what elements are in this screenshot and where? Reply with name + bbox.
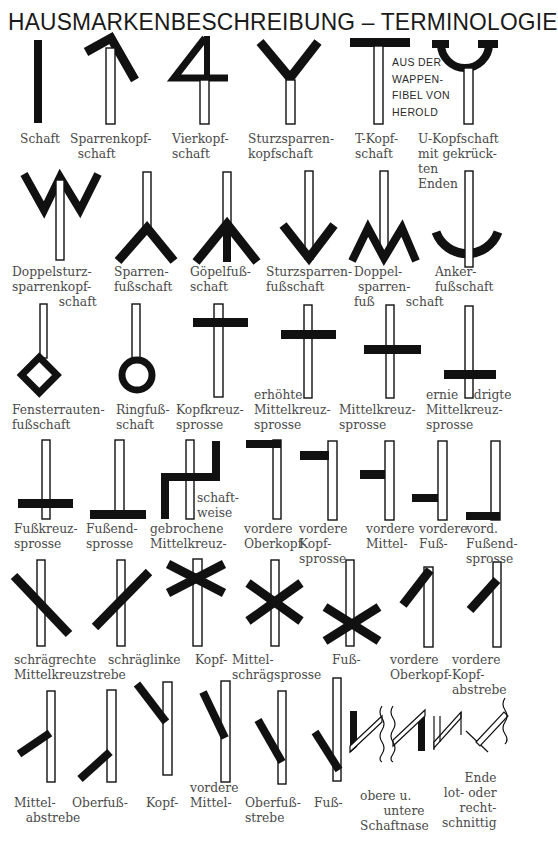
label-vordere-kopfabstrebe: vordere Kopf- abstrebe bbox=[452, 652, 507, 697]
mark-erhoehte-mittelkreuzsprosse-icon bbox=[281, 305, 336, 398]
mark-mittelkreuzsprosse-icon bbox=[364, 305, 421, 398]
label-sparrenkopfschaft: Sparrenkopf- schaft bbox=[70, 131, 151, 161]
label-vierkopfschaft: Vierkopf- schaft bbox=[172, 131, 229, 161]
label-mittel-schraegsprosse: Mittel- schrägsprosse bbox=[232, 652, 321, 682]
mark-oberfuss-abstrebe-icon bbox=[80, 690, 116, 782]
mark-vordere-kopfabstrebe-icon bbox=[470, 562, 501, 647]
mark-ende-rechtschnittig-icon bbox=[466, 698, 508, 752]
mark-oberfuss-strebe-icon bbox=[258, 691, 286, 784]
mark-schraeglinke-mittelkreuzstrebe-icon bbox=[95, 560, 149, 646]
mark-vordere-fusssprosse-icon bbox=[412, 441, 447, 520]
label-sturzsparrenfussschaft: Sturzsparren- fußschaft bbox=[266, 264, 352, 294]
label-mittel-abstrebe: Mittel- abstrebe bbox=[14, 795, 80, 825]
mark-fuss-schraegsprosse-icon bbox=[325, 560, 379, 646]
mark-vordere-oberkopfabstrebe-icon bbox=[403, 567, 433, 647]
label-vordere-oberkopfabstrebe: vordere Oberkopf- bbox=[390, 652, 452, 682]
label-oberfuss-abstrebe: Oberfuß- bbox=[72, 795, 128, 810]
mark-untere-schaftnase-icon bbox=[391, 706, 425, 762]
label-doppelsturzsparrenkopfschaft: Doppelsturz- sparrenkopf- schaft bbox=[12, 264, 97, 309]
label-goepelfussschaft: Göpelfuß- schaft bbox=[190, 264, 251, 294]
mark-vordere-mittelsprosse-icon bbox=[360, 441, 394, 520]
label-fuss-schraegsprosse: Fuß- bbox=[332, 652, 361, 667]
label-kopf-strebe: Kopf- bbox=[146, 795, 178, 810]
mark-vordere-oberkopfsprosse-icon bbox=[246, 440, 281, 519]
mark-fuss-strebe-icon bbox=[315, 678, 341, 781]
mark-obere-schaftnase-icon bbox=[350, 706, 384, 762]
mark-fussendsprosse-icon bbox=[90, 440, 146, 519]
label-vordere-fusssprosse: vordere Fuß- bbox=[419, 521, 467, 551]
mark-sparrenkopfschaft-icon bbox=[86, 38, 135, 124]
mark-ringfussschaft-icon bbox=[122, 304, 152, 390]
mark-vordere-fussendsprosse-icon bbox=[466, 441, 500, 520]
mark-schraegrechte-mittelkreuzstrebe-icon bbox=[14, 560, 69, 646]
label-fensterrautenfussschaft: Fensterrauten- fußschaft bbox=[12, 402, 105, 432]
mark-vierkopfschaft-icon bbox=[174, 36, 228, 124]
label-fusskreuzsprosse: Fußkreuz- sprosse bbox=[14, 521, 78, 551]
label-schaft: Schaft bbox=[20, 131, 60, 146]
label-fuss-strebe: Fuß- bbox=[314, 795, 343, 810]
label-ende-lot-rechtschnittig: Ende lot- oder recht- schnittig bbox=[442, 770, 497, 830]
mark-kopf-strebe-icon bbox=[137, 682, 172, 775]
mark-doppelsturzsparrenkopfschaft-icon bbox=[24, 174, 98, 260]
label-vordere-oberkopfsprosse: vordere Oberkopf- bbox=[244, 521, 306, 551]
label-ringfussschaft: Ringfuß- schaft bbox=[116, 402, 170, 432]
label-doppelsparrenfussschaft: Doppel- sparren- fuß schaft bbox=[354, 264, 444, 309]
label-oberfuss-strebe: Oberfuß- strebe bbox=[245, 795, 301, 825]
mark-ukopfschaft-icon bbox=[432, 40, 498, 124]
label-tkopfschaft: T-Kopf- schaft bbox=[355, 131, 398, 161]
mark-fensterrautenfussschaft-icon bbox=[22, 304, 57, 393]
label-sturzsparrenkopfschaft: Sturzsparren- kopfschaft bbox=[248, 131, 334, 161]
label-fussendsprosse: Fußend- sprosse bbox=[86, 521, 138, 551]
mark-sturzsparrenkopfschaft-icon bbox=[260, 42, 318, 124]
mark-mittel-abstrebe-icon bbox=[19, 691, 55, 782]
mark-kopf-schraegsprosse-icon bbox=[168, 559, 224, 646]
label-mittelkreuzsprosse: Mittelkreuz- sprosse bbox=[339, 402, 416, 432]
mark-sturzsparrenfussschaft-icon bbox=[283, 171, 334, 259]
label-vordere-kopfsprosse: vordere Kopf- sprosse bbox=[299, 521, 347, 566]
label-kopf-schraegsprosse: Kopf- bbox=[195, 652, 227, 667]
label-erhoehte-mittelkreuzsprosse: erhöhte Mittelkreuz- sprosse bbox=[254, 387, 331, 432]
label-vordere-fussendsprosse: vord. Fußend- sprosse bbox=[466, 521, 518, 566]
mark-ende-lotschnittig-icon bbox=[434, 712, 461, 750]
label-ankerfussschaft: Anker- fußschaft bbox=[435, 264, 493, 294]
mark-erniedrigte-mittelkreuzsprosse-icon bbox=[444, 306, 496, 398]
label-sparrenfussschaft: Sparren- fußschaft bbox=[114, 264, 172, 294]
label-kopfkreuzsprosse: Kopfkreuz- sprosse bbox=[176, 402, 244, 432]
mark-fusskreuzsprosse-icon bbox=[18, 440, 73, 519]
mark-goepelfussschaft-icon bbox=[196, 172, 257, 262]
label-vordere-mittel-strebe: vordere Mittel- bbox=[190, 780, 238, 810]
label-schaftweise: schaft- weise bbox=[197, 490, 239, 520]
mark-tkopfschaft-icon bbox=[374, 46, 383, 124]
mark-doppelsparrenfussschaft-icon bbox=[352, 171, 416, 261]
label-erniedrigte-mittelkreuzsprosse: ernie drigte Mittelkreuz- sprosse bbox=[426, 387, 511, 432]
mark-vordere-mittel-strebe-icon bbox=[203, 681, 230, 782]
label-ukopfschaft: U-Kopfschaft mit gekrück- ten Enden bbox=[418, 131, 499, 191]
mark-kopfkreuzsprosse-icon bbox=[193, 304, 248, 397]
mark-schaft-icon bbox=[34, 40, 42, 123]
label-schraeglinke: schräglinke bbox=[108, 652, 181, 667]
label-vordere-mittelsprosse: vordere Mittel- bbox=[366, 521, 414, 551]
mark-vordere-kopfsprosse-icon bbox=[300, 441, 337, 520]
label-gebrochene-mittelkreuzsprosse: gebrochene Mittelkreuz- bbox=[150, 521, 227, 551]
mark-mittel-schraegsprosse-icon bbox=[248, 560, 301, 646]
label-schaftnase: obere u. untere Schaftnase bbox=[360, 788, 429, 833]
mark-sparrenfussschaft-icon bbox=[118, 172, 174, 261]
